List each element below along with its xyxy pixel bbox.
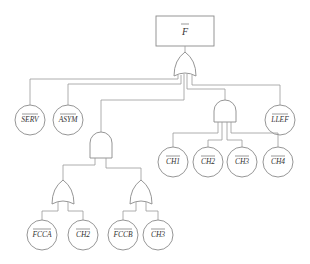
event-asym: ASYM xyxy=(53,105,83,135)
event-serv: SERV xyxy=(15,105,45,135)
svg-text:FCCB: FCCB xyxy=(112,230,133,239)
wire-or-b xyxy=(106,158,141,180)
fault-tree-diagram: F SERV ASYM LLEF CH1 CH2 CH xyxy=(0,0,310,264)
event-ch1: CH1 xyxy=(158,147,188,177)
svg-text:LLEF: LLEF xyxy=(270,115,289,124)
left-and-gate xyxy=(90,132,112,158)
event-fcca: FCCA xyxy=(27,220,57,250)
wire-ch3b xyxy=(146,202,158,220)
wire-or-a xyxy=(63,158,95,180)
event-fccb: FCCB xyxy=(108,220,138,250)
wire-ch3 xyxy=(227,122,242,147)
event-ch4: CH4 xyxy=(263,147,293,177)
top-event: F xyxy=(156,16,214,46)
event-ch2-b: CH2 xyxy=(68,220,98,250)
event-ch3-b: CH3 xyxy=(143,220,173,250)
or-gate-b xyxy=(130,180,152,204)
wire-serv xyxy=(30,75,178,105)
svg-text:ASYM: ASYM xyxy=(58,115,79,124)
wire-ch1 xyxy=(173,122,218,147)
event-ch3: CH3 xyxy=(227,147,257,177)
top-event-label: F xyxy=(181,26,189,37)
right-and-gate xyxy=(214,100,236,122)
top-or-gate xyxy=(174,52,196,76)
svg-text:CH2: CH2 xyxy=(201,157,215,166)
svg-text:CH3: CH3 xyxy=(235,157,249,166)
wire-asym xyxy=(68,75,181,105)
wire-ch2b xyxy=(68,202,83,220)
wire-and-left xyxy=(101,74,184,132)
wire-fcca xyxy=(42,202,58,220)
svg-text:CH4: CH4 xyxy=(271,157,285,166)
or-gate-a xyxy=(52,180,74,204)
wire-and-right xyxy=(187,74,225,100)
svg-text:CH1: CH1 xyxy=(166,157,180,166)
wire-llef xyxy=(192,75,280,105)
wire-fccb xyxy=(123,202,136,220)
wire-ch2 xyxy=(208,122,222,147)
event-llef: LLEF xyxy=(265,105,295,135)
svg-text:FCCA: FCCA xyxy=(31,230,52,239)
svg-text:CH3: CH3 xyxy=(151,230,165,239)
svg-text:SERV: SERV xyxy=(21,115,40,124)
event-ch2: CH2 xyxy=(193,147,223,177)
svg-text:CH2: CH2 xyxy=(76,230,90,239)
